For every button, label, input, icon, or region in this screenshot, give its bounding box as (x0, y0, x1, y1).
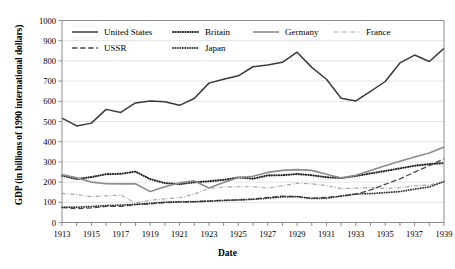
y-tick-label: 300 (43, 157, 56, 167)
x-tick-label: 1939 (436, 229, 453, 239)
legend-label-japan[interactable]: Japan (205, 43, 226, 53)
y-tick-label: 1000 (39, 16, 56, 26)
legend-label-france[interactable]: France (366, 27, 391, 37)
plot-area: 01002003004005006007008009001000 1913191… (0, 0, 455, 269)
y-tick-label: 600 (43, 96, 56, 106)
x-tick-label: 1929 (289, 229, 306, 239)
legend-label-britain[interactable]: Britain (205, 27, 230, 37)
x-tick-label: 1937 (406, 229, 423, 239)
x-tick-label: 1927 (259, 229, 276, 239)
y-axis-ticks: 01002003004005006007008009001000 (39, 16, 62, 228)
x-tick-label: 1913 (54, 229, 71, 239)
x-tick-label: 1917 (112, 229, 129, 239)
x-tick-label: 1933 (347, 229, 364, 239)
y-tick-label: 800 (43, 56, 56, 66)
series-line-japan (62, 181, 444, 207)
gdp-line-chart: GDP (in billions of 1990 international d… (0, 0, 455, 269)
legend-label-united-states[interactable]: United States (104, 27, 153, 37)
y-tick-label: 700 (43, 76, 56, 86)
series-line-germany (62, 147, 444, 192)
y-tick-label: 0 (52, 218, 56, 228)
x-tick-label: 1931 (318, 229, 335, 239)
legend-label-germany[interactable]: Germany (285, 27, 319, 37)
x-axis-ticks: 1913191519171919192119231925192719291931… (54, 223, 453, 239)
x-tick-label: 1921 (171, 229, 188, 239)
series-line-united-states (62, 48, 444, 126)
series-line-britain (62, 163, 444, 184)
series-lines (62, 48, 444, 208)
x-tick-label: 1935 (377, 229, 394, 239)
x-tick-label: 1919 (142, 229, 159, 239)
x-tick-label: 1925 (230, 229, 247, 239)
y-tick-label: 500 (43, 117, 56, 127)
x-tick-label: 1915 (83, 229, 100, 239)
legend-label-ussr[interactable]: USSR (104, 43, 127, 53)
y-tick-label: 900 (43, 36, 56, 46)
y-tick-label: 100 (43, 197, 56, 207)
x-tick-label: 1923 (200, 229, 217, 239)
y-tick-label: 200 (43, 177, 56, 187)
y-tick-label: 400 (43, 137, 56, 147)
